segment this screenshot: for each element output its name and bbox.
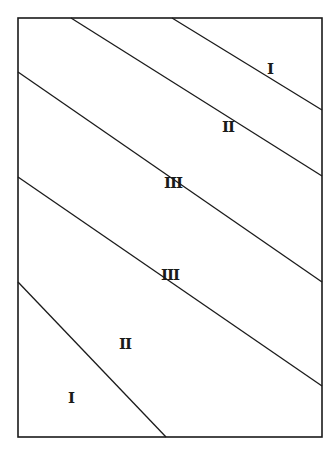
zone-label-top-3: III — [164, 174, 182, 192]
zone-label-bottom-1: I — [68, 389, 74, 407]
zone-diagram — [0, 0, 334, 456]
zone-label-top-1: I — [267, 60, 273, 78]
zone-label-bottom-3: III — [161, 266, 179, 284]
zone-label-bottom-2: II — [119, 335, 131, 353]
zone-label-top-2: II — [222, 118, 234, 136]
